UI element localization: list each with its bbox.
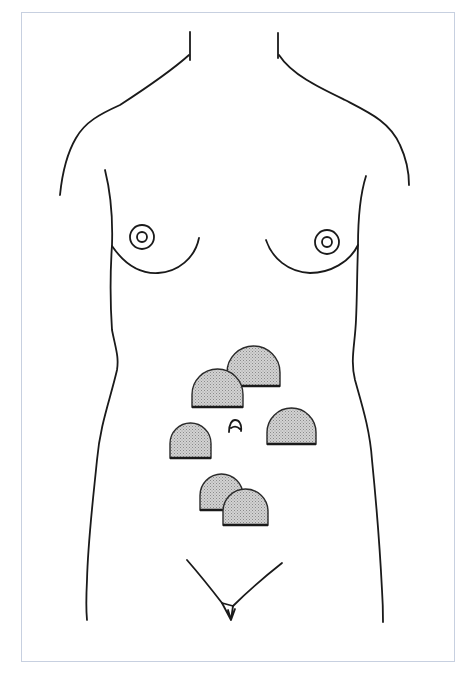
marker-group [170, 346, 316, 525]
marker-mid-left [170, 423, 211, 458]
right-nipple-icon [315, 230, 339, 254]
right-breast-outline [266, 240, 358, 273]
navel-icon [229, 420, 241, 432]
left-breast-outline [112, 238, 199, 273]
marker-mid-right [267, 408, 316, 444]
groin-outline [187, 560, 282, 606]
left-torso-outline [86, 170, 117, 620]
right-shoulder-outline [279, 55, 409, 185]
left-nipple-icon [130, 225, 154, 249]
neck-outline [190, 32, 278, 60]
left-shoulder-outline [60, 55, 189, 195]
torso-diagram [0, 0, 475, 674]
right-torso-outline [353, 176, 383, 622]
